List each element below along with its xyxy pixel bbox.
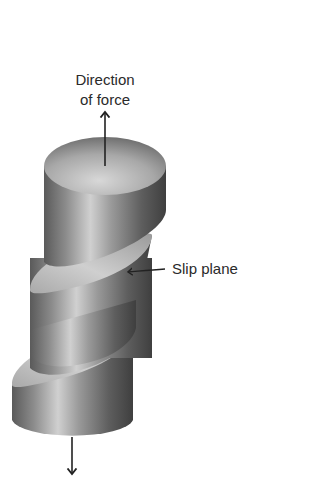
direction-of-force-label: Direction of force	[64, 70, 146, 110]
slip-plane-label: Slip plane	[172, 259, 238, 279]
direction-label-line2: of force	[64, 90, 146, 110]
direction-label-line1: Direction	[64, 70, 146, 90]
